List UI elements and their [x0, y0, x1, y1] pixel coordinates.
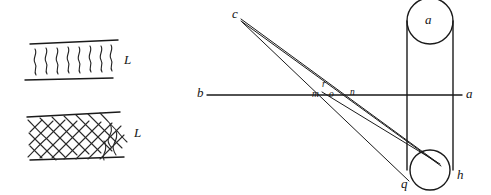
mesh-stroke: [100, 113, 127, 142]
label-h: h: [457, 167, 464, 182]
label-c: c: [232, 6, 238, 21]
ray-c-to-q: [242, 22, 409, 181]
left-top-band: L: [25, 40, 131, 80]
wavy-stroke: [89, 46, 91, 72]
label-b: b: [197, 85, 204, 100]
cylinder-bottom-circle: [410, 150, 450, 190]
label-q: q: [401, 176, 408, 191]
mesh-stroke: [30, 146, 42, 158]
label-a-axis: a: [466, 86, 473, 101]
top-band-lower-rule: [25, 78, 113, 80]
diagram-svg: L: [0, 0, 491, 195]
label-r: r: [322, 79, 326, 89]
bottom-band-upper-rule: [27, 112, 120, 117]
wavy-stroke: [34, 49, 36, 75]
label-m: m: [312, 89, 319, 99]
wavy-stroke: [78, 47, 80, 73]
right-optical-diagram: c b a a r m o n q h: [197, 0, 473, 191]
label-o: o: [329, 89, 334, 99]
wavy-stroke: [45, 48, 47, 74]
label-n: n: [350, 87, 355, 97]
wavy-stroke: [110, 45, 112, 71]
top-band-upper-rule: [30, 40, 118, 44]
ray-c-upper: [241, 19, 438, 163]
wavy-stroke: [100, 46, 102, 72]
wavy-stroke: [56, 48, 58, 74]
mesh-stroke: [30, 120, 42, 132]
bottom-band-label: L: [133, 125, 141, 140]
wavy-stroke: [67, 47, 69, 73]
top-band-label: L: [123, 52, 131, 67]
ray-c-lower: [241, 21, 441, 166]
wavy-stroke-group: [34, 45, 112, 75]
ray-crossing-stroke: [322, 92, 440, 164]
figure-canvas: L: [0, 0, 491, 195]
mesh-stroke-group: [28, 113, 127, 160]
label-a-cylinder: a: [425, 12, 432, 27]
left-bottom-band: L: [27, 112, 141, 160]
